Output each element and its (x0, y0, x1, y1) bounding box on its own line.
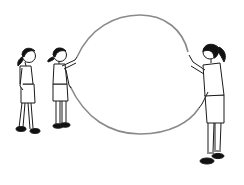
jump-rope-illustration: Line drawing of three girls playing jump… (0, 0, 244, 185)
